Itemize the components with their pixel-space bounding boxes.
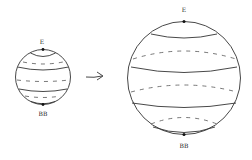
small-sphere-outline	[16, 50, 71, 105]
large-band-4	[153, 127, 215, 133]
large-dash-3	[151, 118, 217, 125]
large-sphere-bottom-label: BB	[180, 142, 189, 149]
large-sphere: E BB	[128, 6, 241, 149]
large-sphere-bottom-pole	[183, 133, 186, 136]
arrow-icon	[86, 72, 103, 80]
large-sphere-top-pole	[183, 20, 186, 23]
large-band-3	[132, 103, 236, 108]
small-band-3	[19, 89, 67, 92]
small-dash-2	[17, 80, 69, 82]
small-band-1	[31, 53, 56, 57]
small-sphere-bottom-pole	[42, 103, 45, 106]
large-sphere-top-label: E	[182, 6, 186, 13]
small-band-2	[18, 67, 69, 70]
large-band-2	[131, 67, 237, 73]
large-band-1	[151, 34, 217, 38]
small-dash-3	[25, 96, 61, 98]
small-sphere-top-label: E	[40, 38, 44, 45]
large-dash-2	[131, 85, 237, 92]
small-sphere-top-pole	[42, 48, 45, 51]
diagram-canvas: E BB E BB	[0, 0, 252, 160]
small-dash-1	[23, 62, 63, 64]
small-sphere: E BB	[16, 38, 71, 117]
small-sphere-bottom-label: BB	[39, 110, 48, 117]
large-dash-1	[133, 51, 236, 59]
